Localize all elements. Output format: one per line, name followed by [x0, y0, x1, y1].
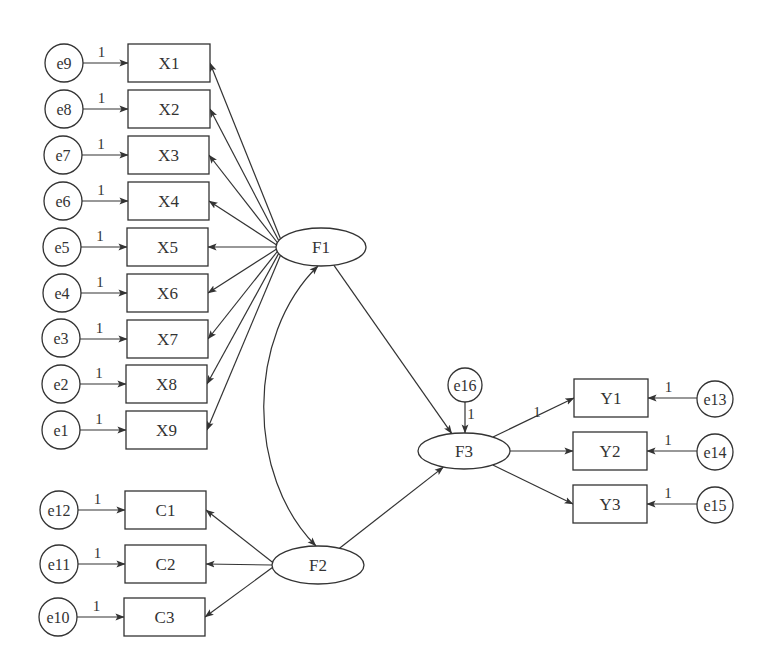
observed-variable-label: X2 — [159, 100, 180, 119]
loading-path-f2-c2 — [206, 564, 272, 565]
error-term-label: e7 — [55, 147, 70, 164]
observed-variable-label: X6 — [157, 284, 178, 303]
error-term-label: e13 — [703, 391, 726, 408]
fixed-weight-label: 1 — [98, 44, 106, 60]
error-term-label: e1 — [53, 422, 68, 439]
error-term-label: e14 — [703, 444, 726, 461]
observed-variable-label: Y1 — [601, 389, 622, 408]
fixed-weight-label: 1 — [94, 491, 102, 507]
latent-factor-label: F2 — [309, 556, 327, 575]
latent-factor-label: F1 — [312, 238, 330, 257]
error-term-label: e16 — [453, 377, 476, 394]
error-term-label: e4 — [54, 285, 69, 302]
observed-variable-label: X7 — [157, 330, 178, 349]
error-term-label: e11 — [48, 556, 71, 573]
fixed-weight-label: 1 — [97, 136, 105, 152]
covariance-f1-f2 — [264, 266, 318, 546]
loading-path-f1-x9 — [207, 255, 281, 430]
loading-path-f1-x1 — [210, 63, 281, 239]
observed-variable-label: X8 — [156, 375, 177, 394]
fixed-weight-label: 1 — [96, 274, 104, 290]
observed-variable-label: C3 — [155, 608, 175, 627]
observed-variable-label: X5 — [157, 238, 178, 257]
fixed-weight-label: 1 — [664, 432, 672, 448]
error-term-label: e8 — [56, 101, 71, 118]
fixed-weight-label: 1 — [93, 598, 101, 614]
error-term-label: e12 — [47, 502, 70, 519]
error-term-label: e9 — [56, 55, 71, 72]
loading-path-f3-y3 — [493, 465, 573, 504]
loading-path-f2-c3 — [205, 568, 272, 617]
fixed-weight-label: 1 — [95, 365, 103, 381]
observed-variable-label: X9 — [156, 421, 177, 440]
observed-variable-label: Y2 — [600, 442, 621, 461]
loading-path-f1-x6 — [208, 249, 276, 293]
loading-path-f1-x2 — [210, 109, 279, 241]
error-term-label: e10 — [46, 609, 69, 626]
fixed-weight-label: 1 — [665, 379, 673, 395]
error-term-label: e2 — [53, 376, 68, 393]
observed-variable-label: C1 — [156, 501, 176, 520]
observed-variable-label: Y3 — [600, 495, 621, 514]
loading-path-f1-x4 — [209, 201, 276, 245]
fixed-weight-label: 1 — [97, 182, 105, 198]
error-term-label: e6 — [55, 193, 70, 210]
fixed-weight-label: 1 — [96, 228, 104, 244]
fixed-weight-label: 1 — [664, 485, 672, 501]
error-term-label: e15 — [703, 497, 726, 514]
error-term-label: e3 — [53, 330, 68, 347]
error-term-label: e5 — [54, 239, 69, 256]
latent-factor-label: F3 — [455, 442, 473, 461]
fixed-weight-label: 1 — [467, 406, 475, 422]
fixed-weight-label: 1 — [96, 320, 104, 336]
observed-variable-label: X4 — [158, 192, 179, 211]
loading-path-f1-x7 — [208, 252, 277, 340]
fixed-weight-label: 1 — [95, 411, 103, 427]
fixed-weight-label: 1 — [98, 90, 106, 106]
structural-path-f2-f3 — [340, 467, 444, 548]
observed-variable-label: X3 — [158, 146, 179, 165]
sem-path-diagram: e91e81e71e61e51e41e31e21e11e121e111e101e… — [0, 0, 769, 672]
loading-path-f1-x3 — [209, 155, 277, 243]
observed-variable-label: X1 — [159, 54, 180, 73]
structural-path-f1-f3 — [334, 265, 452, 433]
fixed-weight-label: 1 — [94, 545, 102, 561]
loading-path-f2-c1 — [206, 510, 273, 562]
observed-variable-label: C2 — [156, 555, 176, 574]
fixed-loading-label: 1 — [533, 404, 541, 420]
